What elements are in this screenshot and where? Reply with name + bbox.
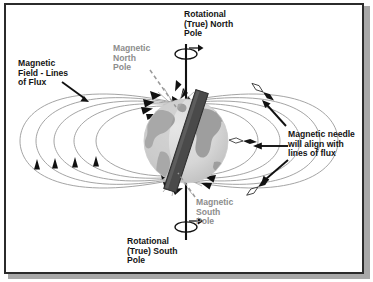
flow-arrow-l1 bbox=[93, 156, 99, 167]
north-arrow-5 bbox=[175, 80, 182, 92]
north-arrow-3 bbox=[141, 107, 153, 115]
diagram-canvas: Rotational (True) North Pole Magnetic No… bbox=[0, 0, 373, 282]
flow-arrow-l4 bbox=[34, 159, 40, 170]
needle-middle-right-light bbox=[229, 137, 243, 143]
label-rotational-south-pole: Rotational (True) South Pole bbox=[127, 237, 178, 266]
flow-arrow-l3 bbox=[52, 158, 58, 169]
label-magnetic-south-pole: Magnetic South Pole bbox=[196, 198, 233, 227]
field-flow-arrowheads-left bbox=[34, 156, 99, 170]
label-magnetic-north-pole: Magnetic North Pole bbox=[113, 44, 150, 73]
needle-middle-right bbox=[229, 137, 257, 144]
south-arrow-6 bbox=[201, 183, 212, 190]
spin-arrowhead-north bbox=[198, 45, 204, 52]
label-magnetic-needle: Magnetic needle will align with lines of… bbox=[288, 130, 355, 159]
needle-lower-right-light bbox=[245, 185, 259, 197]
label-rotational-north-pole: Rotational (True) North Pole bbox=[184, 10, 233, 39]
label-magnetic-field-lines-of-flux: Magnetic Field - Lines of Flux bbox=[18, 59, 68, 88]
needle-middle-right-dark bbox=[243, 138, 257, 144]
needle-upper-right-light bbox=[250, 81, 264, 94]
figure-root: Rotational (True) North Pole Magnetic No… bbox=[0, 0, 373, 282]
flow-arrow-l2 bbox=[72, 157, 78, 168]
